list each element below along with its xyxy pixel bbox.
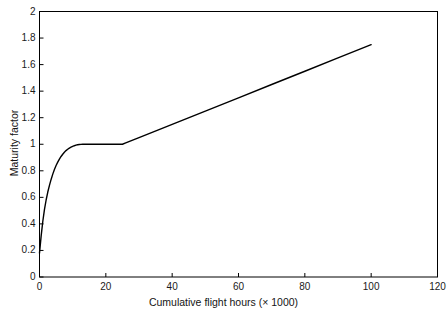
x-tick-label: 40 — [152, 282, 192, 292]
y-tick-label: 1 — [30, 139, 36, 149]
y-tick-label: 1.8 — [22, 33, 36, 43]
y-tick-label: 2 — [30, 7, 36, 17]
chart-plot-svg — [0, 0, 447, 316]
x-tick-label: 20 — [86, 282, 126, 292]
x-tick-label: 120 — [418, 282, 447, 292]
chart-figure: 00.20.40.60.811.21.41.61.82 020406080100… — [0, 0, 447, 316]
y-tick-label: 1.4 — [22, 86, 36, 96]
x-tick-label: 80 — [285, 282, 325, 292]
y-tick-label: 1.2 — [22, 113, 36, 123]
y-axis-title: Maturity factor — [8, 83, 20, 203]
x-tick-label: 0 — [20, 282, 60, 292]
y-tick-label: 0.2 — [22, 245, 36, 255]
y-tick-label: 0.8 — [22, 166, 36, 176]
chart-background — [0, 0, 447, 316]
x-tick-label: 60 — [219, 282, 259, 292]
x-axis-title: Cumulative flight hours (× 1000) — [0, 296, 447, 308]
x-tick-label: 100 — [351, 282, 391, 292]
y-tick-label: 1.6 — [22, 60, 36, 70]
y-tick-label: 0.6 — [22, 192, 36, 202]
y-tick-label: 0.4 — [22, 219, 36, 229]
y-tick-label: 0 — [30, 272, 36, 282]
